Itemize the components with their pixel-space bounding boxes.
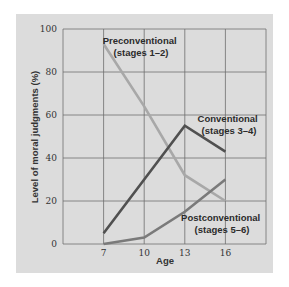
y-tick-label: 40 — [46, 153, 58, 163]
label-preconventional-line2: (stages 1–2) — [114, 47, 169, 58]
x-tick-label: 10 — [138, 248, 150, 258]
label-conventional-line1: Conventional — [198, 113, 258, 124]
y-tick-label: 100 — [40, 24, 57, 34]
x-axis-label: Age — [156, 255, 174, 266]
x-tick-label: 7 — [101, 248, 107, 258]
y-tick-label: 0 — [51, 239, 57, 249]
label-preconventional: Preconventional (stages 1–2) — [103, 35, 180, 58]
label-conventional: Conventional (stages 3–4) — [198, 113, 261, 136]
x-tick-label: 16 — [220, 248, 232, 258]
label-postconventional-line1: Postconventional — [181, 212, 260, 223]
moral-judgment-chart: 0204060801007101316 Age Level of moral j… — [0, 0, 289, 287]
y-tick-label: 60 — [46, 110, 58, 120]
label-postconventional-line2: (stages 5–6) — [195, 224, 250, 235]
y-axis-label: Level of moral judgments (%) — [29, 71, 40, 204]
x-tick-label: 13 — [179, 248, 191, 258]
y-tick-label: 20 — [46, 196, 58, 206]
label-postconventional: Postconventional (stages 5–6) — [181, 212, 263, 235]
y-tick-label: 80 — [46, 67, 58, 77]
label-conventional-line2: (stages 3–4) — [202, 125, 257, 136]
label-preconventional-line1: Preconventional — [103, 35, 177, 46]
